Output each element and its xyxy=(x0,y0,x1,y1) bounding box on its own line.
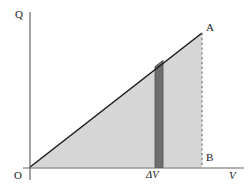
y-axis-label: Q xyxy=(15,9,23,20)
x-axis-label: V xyxy=(229,170,236,181)
diagram-canvas: Q A B O V ΔV xyxy=(0,0,250,193)
delta-v-label: ΔV xyxy=(146,170,159,181)
origin-label: O xyxy=(14,170,22,181)
point-label-a: A xyxy=(206,22,214,33)
point-label-b: B xyxy=(206,152,213,163)
delta-v-strip xyxy=(155,60,163,167)
